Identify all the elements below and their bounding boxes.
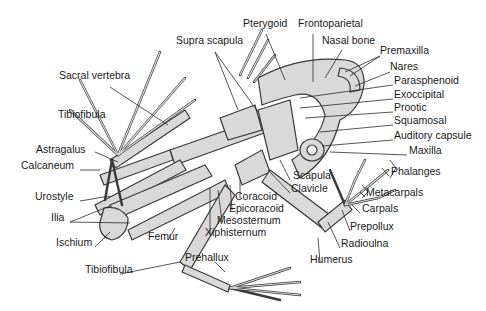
label-calcaneum: Calcaneum: [21, 159, 74, 171]
label-prootic: Prootic: [394, 101, 427, 113]
label-carpals: Carpals: [362, 202, 398, 214]
frog-skeleton-diagram: Pterygoid Frontoparietal Supra scapula N…: [0, 0, 486, 311]
label-auditory-capsule: Auditory capsule: [394, 129, 472, 141]
label-supra-scapula: Supra scapula: [176, 34, 243, 46]
label-parasphenoid: Parasphenoid: [394, 74, 459, 86]
ischium-shape: [100, 207, 128, 240]
label-ilia: Ilia: [51, 211, 64, 223]
label-pterygoid: Pterygoid: [243, 17, 287, 29]
lower-foot: [182, 265, 230, 292]
label-coracoid: Coracoid: [235, 190, 277, 202]
label-ischium: Ischium: [56, 236, 92, 248]
label-urostyle: Urostyle: [35, 190, 74, 202]
scapula-shape: [258, 100, 298, 160]
label-scapula: Scapula: [293, 169, 331, 181]
label-metacarpals: Metacarpals: [366, 186, 423, 198]
label-clavicle: Clavicle: [291, 182, 328, 194]
label-tibiofibula-upper: Tibiofibula: [58, 108, 105, 120]
label-radioulna: Radioulna: [341, 237, 388, 249]
label-phalanges: Phalanges: [391, 165, 441, 177]
label-premaxilla: Premaxilla: [380, 44, 429, 56]
label-squamosal: Squamosal: [394, 114, 447, 126]
label-nares: Nares: [390, 60, 418, 72]
label-epicoracoid: Epicoracoid: [229, 202, 284, 214]
label-exoccipital: Exoccipital: [394, 88, 444, 100]
label-nasal-bone: Nasal bone: [322, 34, 375, 46]
label-tibiofibula-lower: Tibiofibula: [85, 263, 132, 275]
label-sacral-vertebra: Sacral vertebra: [59, 69, 130, 81]
label-prepollux: Prepollux: [350, 220, 394, 232]
label-xiphisternum: Xiphisternum: [205, 226, 266, 238]
label-maxilla: Maxilla: [409, 144, 442, 156]
label-frontoparietal: Frontoparietal: [298, 17, 363, 29]
label-astragalus: Astragalus: [36, 143, 86, 155]
label-prehallux: Prehallux: [185, 251, 229, 263]
label-humerus: Humerus: [310, 253, 353, 265]
label-mesosternum: Mesosternum: [217, 214, 281, 226]
label-femur: Femur: [148, 230, 178, 242]
